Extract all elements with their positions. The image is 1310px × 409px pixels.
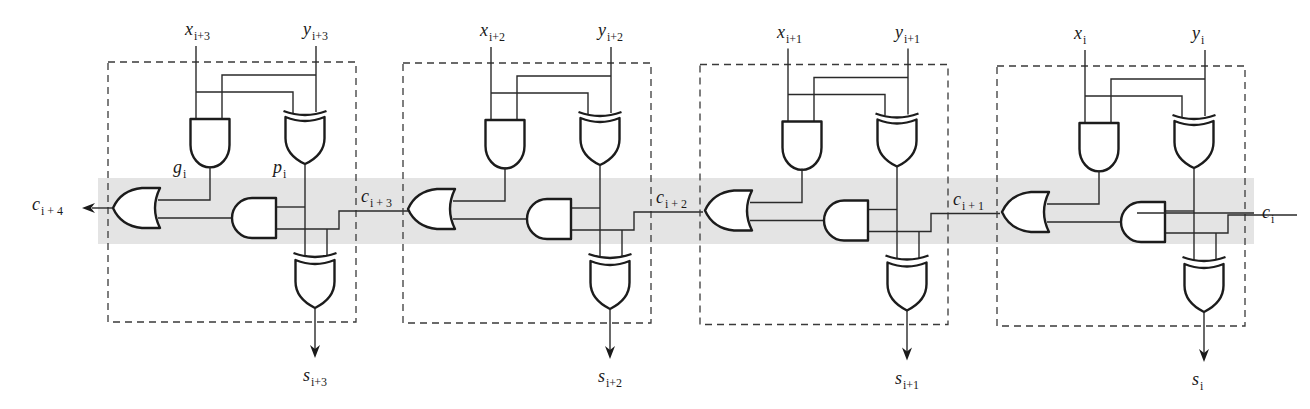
ripple-carry-adder-diagram: xi+3yi+3si+3gipici + 3xi+2yi+2si+2ci + 2… [0, 0, 1310, 409]
x-input-label: xi+2 [479, 20, 505, 44]
sum-output-label-base: s [895, 368, 902, 388]
carry-out-label-subscript: i + 4 [41, 204, 63, 218]
y-input-label-subscript: i+3 [312, 29, 328, 43]
generate-label-base: g [173, 157, 182, 177]
x-input-label-base: x [479, 20, 488, 40]
x-to-xor-wire [491, 93, 588, 114]
x-input-label: xi+3 [184, 19, 210, 43]
propagate-xor-gate [1175, 121, 1214, 168]
y-input-label-subscript: i+1 [904, 32, 920, 46]
sum-output-label-subscript: i [1200, 379, 1204, 393]
x-input-label-subscript: i [1083, 33, 1087, 47]
propagate-xor-gate [581, 118, 620, 165]
sum-xor-input-arc [1183, 257, 1226, 261]
sum-output-label-subscript: i+3 [311, 375, 327, 389]
sum-xor-gate [591, 261, 630, 309]
propagate-label-base: p [271, 157, 282, 177]
carry-in-external-label-base: c [1262, 202, 1270, 222]
y-input-label: yi [1190, 23, 1205, 47]
sum-xor-gate [1185, 264, 1224, 312]
y-input-label-subscript: i+2 [607, 30, 623, 44]
y-to-and-wire [517, 76, 611, 120]
x-input-label-subscript: i+3 [194, 29, 210, 43]
y-to-and-wire [1111, 79, 1205, 123]
y-input-label-subscript: i [1201, 33, 1205, 47]
sum-xor-input-arc [886, 256, 929, 260]
sum-output-label-subscript: i+2 [606, 376, 622, 390]
sum-output-label-subscript: i+1 [903, 378, 919, 392]
propagate-label: pi [271, 157, 287, 181]
x-to-xor-wire [1085, 96, 1182, 117]
x-to-xor-wire [196, 92, 293, 113]
y-to-and-wire [814, 78, 908, 122]
y-input-label-base: y [301, 19, 311, 39]
x-input-label: xi [1073, 23, 1087, 47]
carry-in-label-subscript: i + 2 [665, 197, 687, 211]
propagate-carry-and-gate [824, 201, 868, 241]
sum-output-label-base: s [598, 366, 605, 386]
carry-in-label-subscript: i + 1 [962, 199, 984, 213]
carry-out-label: ci + 4 [32, 194, 63, 218]
y-input-label: yi+3 [301, 19, 328, 43]
propagate-xor-input-arc [579, 112, 622, 116]
y-to-and-wire [222, 75, 316, 119]
sum-xor-input-arc [589, 254, 632, 258]
propagate-carry-and-gate [527, 199, 571, 239]
propagate-carry-and-gate [1121, 202, 1165, 242]
full-adder-bit1: xi+1yi+1si+1ci + 1 [700, 22, 1000, 392]
carry-in-label-base: c [953, 189, 961, 209]
carry-in-external-label-subscript: i [1271, 212, 1275, 226]
generate-and-gate [486, 120, 525, 168]
generate-and-gate [783, 122, 822, 170]
sum-output-label-base: s [1192, 369, 1199, 389]
y-input-label-base: y [893, 22, 903, 42]
sum-xor-gate [296, 260, 335, 308]
sum-output-label: si+2 [598, 366, 622, 390]
x-input-label-subscript: i+1 [786, 32, 802, 46]
sum-xor-gate [888, 263, 927, 311]
propagate-xor-input-arc [1173, 115, 1216, 119]
carry-in-label-base: c [656, 187, 664, 207]
carry-in-label-subscript: i + 3 [370, 196, 392, 210]
full-adder-bit3: xi+3yi+3si+3gipici + 3 [108, 19, 408, 389]
x-to-xor-wire [788, 95, 885, 116]
sum-output-label: si+1 [895, 368, 919, 392]
propagate-xor-gate [286, 117, 325, 164]
generate-label: gi [173, 157, 187, 181]
y-input-label-base: y [1190, 23, 1200, 43]
x-input-label-base: x [184, 19, 193, 39]
y-input-label-base: y [596, 20, 606, 40]
x-input-label-base: x [776, 22, 785, 42]
propagate-xor-input-arc [876, 114, 919, 118]
full-adder-bit2: xi+2yi+2si+2ci + 2 [403, 20, 703, 390]
sum-output-label: si+3 [303, 365, 327, 389]
carry-out-label-base: c [32, 194, 40, 214]
propagate-xor-gate [878, 120, 917, 167]
generate-and-gate [1080, 123, 1119, 171]
generate-and-gate [191, 119, 230, 167]
x-input-label-subscript: i+2 [489, 30, 505, 44]
sum-output-label-base: s [303, 365, 310, 385]
y-input-label: yi+1 [893, 22, 920, 46]
sum-xor-input-arc [294, 253, 337, 257]
y-input-label: yi+2 [596, 20, 623, 44]
x-input-label-base: x [1073, 23, 1082, 43]
propagate-carry-and-gate [232, 198, 276, 238]
propagate-xor-input-arc [284, 111, 327, 115]
sum-output-label: si [1192, 369, 1204, 393]
x-input-label: xi+1 [776, 22, 802, 46]
carry-in-label-base: c [361, 186, 369, 206]
carry-in-external-label: ci [1262, 202, 1275, 226]
